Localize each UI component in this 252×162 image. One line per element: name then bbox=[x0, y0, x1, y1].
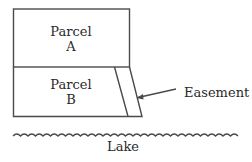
lake-label: Lake bbox=[107, 139, 139, 154]
parcel-a: Parcel A bbox=[14, 9, 130, 67]
easement: Easement bbox=[115, 67, 250, 117]
easement-inner-boundary bbox=[115, 67, 129, 117]
easement-label: Easement bbox=[184, 85, 250, 100]
lake-shoreline-wave bbox=[13, 134, 238, 136]
parcel-a-label-line1: Parcel bbox=[50, 24, 91, 39]
parcel-b-label-line2: B bbox=[66, 92, 76, 107]
lake: Lake bbox=[13, 134, 238, 154]
property-diagram: Parcel A Parcel B Easement Lake bbox=[0, 0, 252, 162]
parcel-b: Parcel B bbox=[14, 67, 143, 117]
easement-pointer-arrow bbox=[138, 89, 176, 98]
parcel-a-label-line2: A bbox=[65, 39, 76, 54]
parcel-b-label-line1: Parcel bbox=[50, 77, 91, 92]
